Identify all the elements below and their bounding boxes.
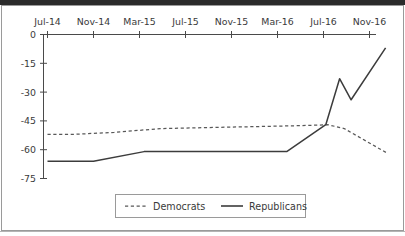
x-tick-label: Nov-16 — [353, 16, 386, 27]
y-tick-label: 0 — [30, 29, 36, 40]
y-tick-label: -45 — [21, 115, 36, 126]
x-tick-label: Mar-15 — [123, 16, 155, 27]
x-tick-label: Jul-14 — [33, 16, 61, 27]
chart-figure: Jul-14 Nov-14 Mar-15 Jul-15 Nov-15 Mar-1… — [0, 0, 405, 236]
y-tick-labels: 0 -15 -30 -45 -60 -75 — [21, 29, 36, 184]
y-tick-label: -75 — [21, 173, 36, 184]
series-line-democrats — [48, 125, 388, 154]
x-tick-label: Mar-16 — [261, 16, 293, 27]
line-chart: Jul-14 Nov-14 Mar-15 Jul-15 Nov-15 Mar-1… — [0, 0, 405, 236]
x-tick-label: Nov-14 — [77, 16, 110, 27]
x-tick-label: Jul-16 — [309, 16, 337, 27]
x-tick-labels: Jul-14 Nov-14 Mar-15 Jul-15 Nov-15 Mar-1… — [33, 16, 386, 27]
legend-label-republicans: Republicans — [249, 201, 307, 212]
series-line-republicans — [48, 48, 386, 161]
legend-label-democrats: Democrats — [153, 201, 205, 212]
x-tick-label: Nov-15 — [215, 16, 248, 27]
y-tick-label: -60 — [21, 144, 36, 155]
chart-legend: Democrats Republicans — [116, 195, 307, 218]
x-tick-label: Jul-15 — [171, 16, 199, 27]
y-tick-label: -15 — [21, 58, 36, 69]
y-tick-label: -30 — [21, 87, 36, 98]
